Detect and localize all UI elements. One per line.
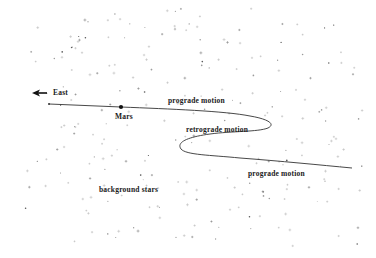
mars-path xyxy=(49,104,352,168)
retrograde-motion-diagram: East Mars prograde motion retrograde mot… xyxy=(0,0,376,258)
retrograde-motion-label: retrograde motion xyxy=(186,126,248,134)
east-arrow-icon xyxy=(32,90,47,97)
prograde-motion-lower-label: prograde motion xyxy=(248,170,305,178)
prograde-motion-upper-label: prograde motion xyxy=(168,97,225,105)
path-start-marker xyxy=(48,103,50,105)
east-label: East xyxy=(53,89,68,97)
mars-dot xyxy=(119,105,123,109)
mars-label: Mars xyxy=(115,113,133,121)
background-stars-label: background stars xyxy=(99,186,158,194)
